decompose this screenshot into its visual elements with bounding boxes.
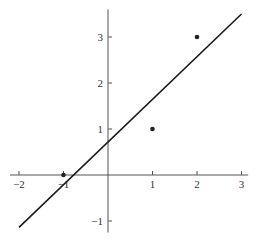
y-tick-label: 2	[98, 77, 104, 89]
scatter-plot-with-regression-line: −2−1123−1123	[0, 0, 255, 242]
y-tick-label: 1	[98, 123, 104, 135]
y-tick-label: −1	[91, 215, 103, 227]
x-tick-label: 2	[194, 178, 200, 190]
data-point	[195, 35, 200, 40]
data-points	[61, 35, 199, 178]
fit-line-segment	[19, 14, 242, 227]
data-point	[61, 173, 66, 178]
y-tick-label: 3	[98, 31, 104, 43]
x-tick-label: −2	[13, 178, 25, 190]
tick-labels: −2−1123−1123	[13, 31, 245, 227]
x-tick-label: 1	[150, 178, 156, 190]
x-tick-label: 3	[239, 178, 245, 190]
regression-line	[19, 14, 242, 227]
axis-ticks	[19, 37, 242, 221]
data-point	[150, 127, 155, 132]
